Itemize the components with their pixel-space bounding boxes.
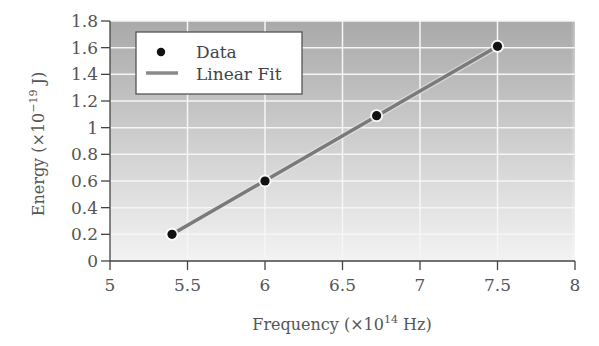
x-tick-label: 7.5 (484, 275, 511, 295)
legend: Data Linear Fit (136, 32, 302, 94)
x-tick-label: 6 (260, 275, 271, 295)
chart: 00.20.40.60.811.21.41.61.8 55.566.577.58… (0, 0, 599, 346)
x-ticks: 55.566.577.58 (105, 261, 581, 295)
legend-label-linear-fit: Linear Fit (196, 64, 282, 84)
y-tick-label: 1.6 (71, 38, 98, 58)
x-tick-label: 6.5 (329, 275, 356, 295)
data-point (260, 176, 269, 185)
x-tick-label: 8 (570, 275, 581, 295)
y-tick-label: 0.6 (71, 171, 98, 191)
data-point (493, 42, 502, 51)
data-point (372, 111, 381, 120)
y-tick-label: 0.4 (71, 198, 98, 218)
x-axis-title: Frequency (×1014 Hz) (252, 313, 431, 334)
x-tick-label: 7 (415, 275, 426, 295)
legend-data-marker-icon (157, 48, 165, 56)
x-tick-label: 5.5 (174, 275, 201, 295)
legend-label-data: Data (196, 42, 237, 62)
y-tick-label: 1.4 (71, 64, 98, 84)
plot-edge-fade (571, 21, 583, 263)
x-tick-label: 5 (105, 275, 116, 295)
y-tick-label: 0.2 (71, 224, 98, 244)
y-tick-label: 1.8 (71, 11, 98, 31)
y-tick-label: 0 (87, 251, 98, 271)
y-ticks: 00.20.40.60.811.21.41.61.8 (71, 11, 110, 271)
y-tick-label: 0.8 (71, 144, 98, 164)
y-axis-title: Energy (×10−19 J) (27, 72, 48, 216)
y-tick-label: 1 (87, 118, 98, 138)
y-tick-label: 1.2 (71, 91, 98, 111)
data-point (167, 230, 176, 239)
